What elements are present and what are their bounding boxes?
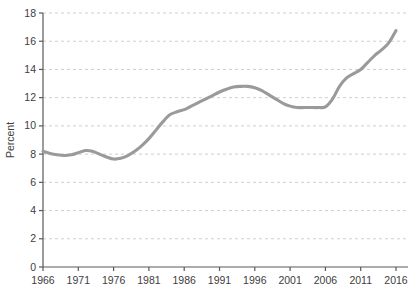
y-tick-label-4: 4 [30, 204, 36, 216]
chart-canvas: 024681012141618 196619711976198119861991… [0, 0, 416, 298]
x-tick-label-1966: 1966 [31, 274, 55, 286]
y-tick-label-16: 16 [24, 35, 36, 47]
x-tick-label-1981: 1981 [137, 274, 161, 286]
y-tick-label-2: 2 [30, 232, 36, 244]
y-tick-label-0: 0 [30, 261, 36, 273]
y-tick-label-8: 8 [30, 148, 36, 160]
x-tick-label-2011: 2011 [349, 274, 372, 286]
chart-background [0, 0, 416, 298]
x-tick-label-2001: 2001 [278, 274, 302, 286]
line-chart: 024681012141618 196619711976198119861991… [0, 0, 416, 298]
x-axis-tick-labels: 1966197119761981198619911996200120062011… [31, 274, 408, 286]
y-tick-label-10: 10 [24, 119, 36, 131]
x-tick-label-1986: 1986 [173, 274, 197, 286]
x-tick-label-2016: 2016 [384, 274, 408, 286]
x-tick-label-1991: 1991 [208, 274, 232, 286]
y-tick-label-14: 14 [24, 63, 36, 75]
x-tick-label-2006: 2006 [314, 274, 338, 286]
y-axis-title: Percent [4, 122, 16, 158]
x-tick-label-1971: 1971 [67, 274, 91, 286]
y-tick-label-6: 6 [30, 176, 36, 188]
y-tick-label-12: 12 [24, 91, 36, 103]
y-tick-label-18: 18 [24, 7, 36, 19]
x-tick-label-1996: 1996 [243, 274, 267, 286]
x-tick-label-1976: 1976 [102, 274, 126, 286]
